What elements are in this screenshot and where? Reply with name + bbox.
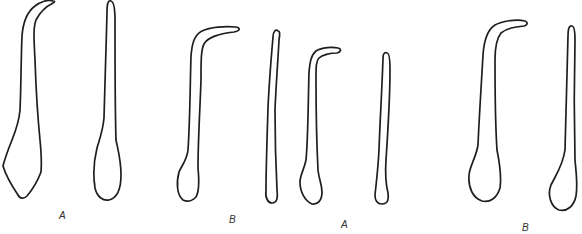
club-form-3 bbox=[375, 53, 390, 204]
hooked-form-3 bbox=[300, 47, 341, 204]
hooked-form-4 bbox=[469, 20, 527, 201]
panel-4 bbox=[469, 20, 577, 210]
club-form-2 bbox=[266, 30, 280, 203]
hooked-form-1 bbox=[3, 0, 55, 198]
panel-1 bbox=[3, 0, 121, 200]
drawing-canvas bbox=[0, 0, 582, 234]
panel-1-label: A bbox=[59, 211, 66, 221]
club-form-4 bbox=[549, 26, 576, 211]
figure: A B A B bbox=[0, 0, 582, 234]
hooked-form-2 bbox=[177, 27, 239, 201]
panel-4-label: B bbox=[522, 223, 529, 233]
club-form-1 bbox=[94, 1, 121, 200]
panel-2-label: B bbox=[229, 215, 236, 225]
panel-2 bbox=[177, 27, 279, 203]
panel-3 bbox=[300, 47, 390, 204]
panel-3-label: A bbox=[341, 220, 348, 230]
